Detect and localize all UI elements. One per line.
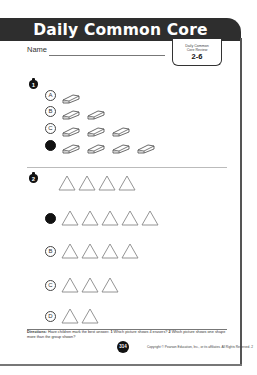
question-2-option-b[interactable]: B [45,244,141,258]
answer-bubble-a[interactable]: A [45,213,56,224]
page-border-bottom [0,364,242,366]
directions-q1-text: Which picture shows 4 erasers? [114,330,168,334]
answer-bubble-c[interactable]: C [45,280,56,291]
worksheet-header: Daily Common Core Review [0,18,241,41]
triangle-icon [61,308,79,324]
question-2-group-shapes [58,176,138,190]
triangle-icon [81,210,99,226]
answer-bubble-d[interactable]: D [45,311,56,322]
eraser-icon [61,140,81,150]
question-1-option-b[interactable]: B [45,104,111,118]
directions-q1-number: 1 [110,330,112,334]
badge-number: 2-6 [173,52,221,61]
directions-q2-number: 2 [168,330,170,334]
triangle-icon [61,277,79,293]
triangle-icon [121,243,139,259]
eraser-icon [86,123,106,133]
triangle-icon [101,210,119,226]
directions-label: Directions: [27,330,47,334]
eraser-icon [61,90,81,100]
eraser-icon [86,106,106,116]
question-1-option-c[interactable]: C [45,121,136,135]
triangle-icon [141,210,159,226]
copyright-text: Copyright © Pearson Education, Inc., or … [147,345,253,349]
directions-text: Directions: Have children mark the best … [27,330,227,339]
question-divider [27,167,227,168]
name-field-line[interactable] [49,55,165,56]
triangle-icon [98,175,116,191]
triangle-icon [61,210,79,226]
triangle-icon [101,277,119,293]
name-label: Name [27,45,47,54]
question-2-option-a[interactable]: A [45,211,161,225]
eraser-icon [111,140,131,150]
triangle-icon [81,243,99,259]
answer-bubble-b[interactable]: B [45,106,56,117]
question-1-option-d[interactable]: D [45,138,161,152]
question-2-option-c[interactable]: C [45,278,121,292]
triangle-icon [81,308,99,324]
eraser-icon [111,123,131,133]
page-number: 314 [117,341,129,353]
question-1-marker-icon: 1 [29,80,38,89]
answer-bubble-a[interactable]: A [45,90,56,101]
question-2-marker-icon: 2 [29,174,38,183]
eraser-icon [61,106,81,116]
triangle-icon [61,243,79,259]
eraser-icon [86,140,106,150]
triangle-icon [121,210,139,226]
answer-bubble-c[interactable]: C [45,123,56,134]
question-2-option-d[interactable]: D [45,309,101,323]
question-1-option-a[interactable]: A [45,88,86,102]
page-border-right [240,38,242,365]
review-badge: Daily Common Core Review 2-6 [172,39,222,66]
directions-instruction: Have children mark the best answer. [48,330,109,334]
eraser-icon [136,140,156,150]
answer-bubble-b[interactable]: B [45,246,56,257]
eraser-icon [61,123,81,133]
triangle-icon [101,243,119,259]
triangle-icon [58,175,76,191]
triangle-icon [78,175,96,191]
answer-bubble-d[interactable]: D [45,140,56,151]
triangle-icon [81,277,99,293]
triangle-icon [118,175,136,191]
